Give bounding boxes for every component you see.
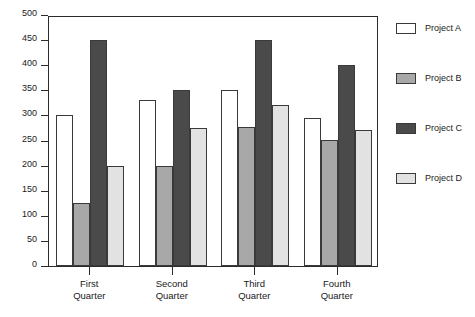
x-axis-tick xyxy=(172,267,173,275)
x-axis-label-line: Quarter xyxy=(127,290,217,302)
x-axis-label-line: Quarter xyxy=(44,290,134,302)
bar-group xyxy=(221,17,289,266)
y-tick-label: 50 xyxy=(27,235,37,244)
x-axis-label: FirstQuarter xyxy=(44,278,134,302)
y-tick-mark xyxy=(41,216,48,217)
y-tick-label: 200 xyxy=(22,160,37,169)
y-tick-mark xyxy=(41,266,48,267)
y-tick-mark xyxy=(41,166,48,167)
legend-swatch xyxy=(396,123,416,134)
x-axis-label-line: Fourth xyxy=(292,278,382,290)
legend-swatch xyxy=(396,173,416,184)
bar xyxy=(355,130,372,266)
y-tick-mark xyxy=(41,241,48,242)
bar xyxy=(238,127,255,266)
y-tick-mark xyxy=(41,115,48,116)
x-axis-label: ThirdQuarter xyxy=(209,278,299,302)
bar xyxy=(107,166,124,266)
legend-swatch xyxy=(396,23,416,34)
x-axis-label: SecondQuarter xyxy=(127,278,217,302)
bar xyxy=(56,115,73,266)
bar xyxy=(156,166,173,266)
bar xyxy=(255,40,272,266)
bar xyxy=(90,40,107,266)
y-tick-label: 500 xyxy=(22,9,37,18)
legend-label: Project B xyxy=(425,74,462,83)
x-axis-label-line: First xyxy=(44,278,134,290)
bar-group xyxy=(56,17,124,266)
x-axis-tick xyxy=(254,267,255,275)
bar xyxy=(73,203,90,266)
y-tick-mark xyxy=(41,40,48,41)
y-tick-label: 350 xyxy=(22,84,37,93)
x-axis-label-line: Quarter xyxy=(209,290,299,302)
bar xyxy=(338,65,355,266)
y-tick-label: 100 xyxy=(22,210,37,219)
bar xyxy=(221,90,238,266)
y-tick-label: 250 xyxy=(22,135,37,144)
x-axis-tick xyxy=(337,267,338,275)
plot-area xyxy=(48,16,378,267)
legend-label: Project C xyxy=(425,124,462,133)
legend-label: Project D xyxy=(425,174,462,183)
bar xyxy=(304,118,321,266)
x-axis-label-line: Quarter xyxy=(292,290,382,302)
legend-label: Project A xyxy=(425,24,461,33)
legend-swatch xyxy=(396,73,416,84)
bar xyxy=(190,128,207,266)
bar-chart: 050100150200250300350400450500 FirstQuar… xyxy=(0,0,475,317)
y-tick-label: 400 xyxy=(22,59,37,68)
x-axis-label-line: Third xyxy=(209,278,299,290)
y-tick-label: 450 xyxy=(22,34,37,43)
y-tick-mark xyxy=(41,65,48,66)
legend-item: Project D xyxy=(396,172,462,184)
x-axis-label: FourthQuarter xyxy=(292,278,382,302)
bar xyxy=(272,105,289,266)
y-tick-label: 150 xyxy=(22,185,37,194)
x-axis-tick xyxy=(89,267,90,275)
legend-item: Project B xyxy=(396,72,462,84)
x-axis-label-line: Second xyxy=(127,278,217,290)
legend-item: Project C xyxy=(396,122,462,134)
y-tick-mark xyxy=(41,90,48,91)
y-tick-mark xyxy=(41,141,48,142)
y-tick-label: 0 xyxy=(32,260,37,269)
bar xyxy=(173,90,190,266)
y-tick-mark xyxy=(41,191,48,192)
bar xyxy=(139,100,156,266)
legend-item: Project A xyxy=(396,22,461,34)
y-tick-label: 300 xyxy=(22,109,37,118)
bar-group xyxy=(139,17,207,266)
bar xyxy=(321,140,338,267)
y-tick-mark xyxy=(41,15,48,16)
bar-group xyxy=(304,17,372,266)
